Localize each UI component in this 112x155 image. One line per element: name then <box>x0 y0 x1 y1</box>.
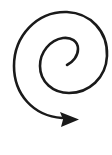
spiral-arrow-icon <box>0 0 112 155</box>
spiral-arrow-graphic: Spiral arrow <box>0 0 112 155</box>
arrowhead <box>60 112 79 127</box>
spiral-path <box>14 12 107 118</box>
